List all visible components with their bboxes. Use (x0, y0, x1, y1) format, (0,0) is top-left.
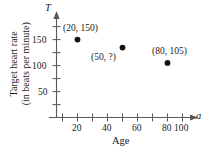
y-axis-title: Target heart rate (in beats per minute) (8, 0, 32, 128)
x-tick-label-20: 20 (72, 124, 82, 134)
point-label-80-105: (80, 105) (152, 47, 187, 57)
data-point-2 (120, 45, 126, 51)
x-axis-title: Age (112, 136, 130, 147)
data-point-1 (75, 37, 81, 43)
x-tick-label-40: 40 (102, 124, 112, 134)
x-tick-label-60: 60 (132, 124, 142, 134)
y-tick-label-100: 100 (32, 62, 47, 72)
y-tick-label-50: 50 (38, 88, 48, 98)
y-axis-title-line2: (in beats per minute) (20, 0, 32, 128)
x-tick-label-80: 80 (162, 124, 172, 134)
x-axis-variable-label: a (196, 111, 201, 122)
point-label-20-150: (20, 150) (63, 24, 98, 34)
y-axis-arrow-icon (53, 11, 59, 19)
x-tick-label-100: 100 (174, 124, 189, 134)
point-label-50-unknown: (50, ?) (91, 53, 116, 63)
y-axis-variable-label: T (45, 3, 51, 14)
y-tick-label-150: 150 (32, 36, 47, 46)
y-axis-title-line1: Target heart rate (8, 0, 20, 128)
scatter-plot-figure: 150 100 50 20 40 60 80 100 T a (20, 150)… (0, 0, 208, 153)
data-point-3 (165, 60, 171, 66)
